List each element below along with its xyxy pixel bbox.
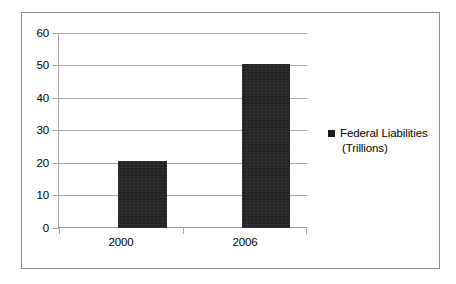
y-tick-label-50: 50	[23, 60, 49, 71]
x-axis-ticks	[59, 228, 307, 234]
x-tick-mark-end	[306, 228, 307, 234]
y-tick-label-20: 20	[23, 158, 49, 169]
legend-item-federal-liabilities[interactable]: Federal Liabilities (Trillions)	[327, 126, 439, 156]
x-axis-labels: 2000 2006	[59, 235, 307, 255]
y-tick-label-0: 0	[23, 223, 49, 234]
plot-area	[59, 33, 307, 228]
legend-label-line1: Federal Liabilities	[340, 127, 428, 139]
y-axis-labels: 60 50 40 30 20 10 0	[22, 13, 49, 268]
legend-swatch-icon	[328, 130, 335, 137]
y-tick-label-60: 60	[23, 28, 49, 39]
x-tick-mark-start	[59, 228, 60, 234]
bar-2006	[242, 64, 290, 228]
x-tick-mark-middle	[183, 228, 184, 234]
x-tick-label-2006: 2006	[183, 235, 307, 249]
y-tick-label-30: 30	[23, 125, 49, 136]
y-tick-label-40: 40	[23, 93, 49, 104]
y-tick-label-10: 10	[23, 190, 49, 201]
x-tick-label-2000: 2000	[59, 235, 183, 249]
chart-legend: Federal Liabilities (Trillions)	[327, 126, 439, 156]
gridline-60	[59, 33, 307, 34]
bar-2000	[118, 161, 167, 228]
legend-label-line2: (Trillions)	[340, 141, 439, 156]
chart-frame: 60 50 40 30 20 10 0 2000 2006	[21, 12, 440, 269]
